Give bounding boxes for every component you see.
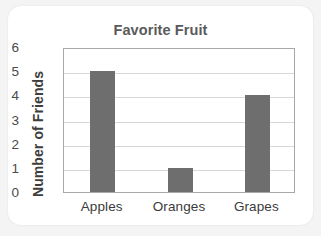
y-axis-tick-label: 0 [0,186,19,200]
y-axis-tick-label: 5 [0,65,19,79]
chart-title: Favorite Fruit [8,22,313,38]
chart-card: Favorite Fruit Number of Friends 0123456… [8,6,313,225]
x-axis-tick-labels: ApplesOrangesGrapes [63,196,295,218]
y-axis-tick-label: 1 [0,162,19,176]
y-axis-tick-label: 4 [0,90,19,104]
bar [245,95,270,192]
bar [168,168,193,192]
y-axis-title: Number of Friends [30,71,46,197]
y-axis-title-container: Number of Friends [28,64,48,204]
y-axis-tick-label: 3 [0,114,19,128]
y-axis-tick-label: 6 [0,41,19,55]
y-axis-tick-label: 2 [0,138,19,152]
x-axis-tick-label: Oranges [140,196,217,218]
x-axis-tick-label: Grapes [218,196,295,218]
bar [90,71,115,192]
x-axis-tick-label: Apples [63,196,140,218]
plot-area [63,48,295,193]
